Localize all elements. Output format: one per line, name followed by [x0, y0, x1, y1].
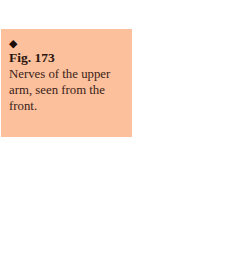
figure-number: Fig. 173: [9, 50, 124, 66]
figure-caption-box: ◆ Fig. 173 Nerves of the upper arm, seen…: [1, 29, 132, 137]
diamond-bullet-icon: ◆: [9, 38, 124, 50]
caption-text: Nerves of the upper arm, seen from the f…: [9, 66, 124, 114]
